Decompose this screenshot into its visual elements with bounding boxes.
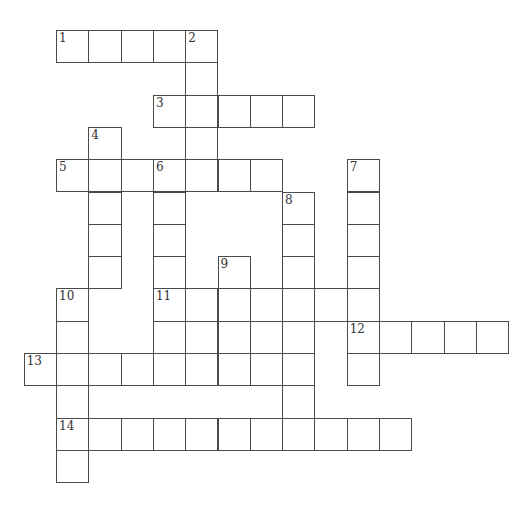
crossword-cell[interactable] [250, 353, 283, 386]
clue-number: 14 [59, 420, 74, 433]
crossword-cell[interactable] [56, 321, 89, 354]
crossword-cell[interactable]: 5 [56, 159, 89, 192]
crossword-cell[interactable] [411, 321, 444, 354]
crossword-cell[interactable] [218, 321, 251, 354]
crossword-cell[interactable]: 4 [88, 127, 121, 160]
clue-number: 2 [188, 32, 196, 45]
crossword-cell[interactable]: 12 [347, 321, 380, 354]
crossword-cell[interactable] [282, 353, 315, 386]
crossword-cell[interactable] [88, 256, 121, 289]
crossword-cell[interactable]: 2 [185, 30, 218, 63]
crossword-cell[interactable] [250, 159, 283, 192]
crossword-cell[interactable] [88, 418, 121, 451]
clue-number: 3 [156, 97, 164, 110]
crossword-cell[interactable] [282, 224, 315, 257]
clue-number: 13 [27, 355, 42, 368]
crossword-cell[interactable] [347, 418, 380, 451]
crossword-cell[interactable] [218, 418, 251, 451]
crossword-cell[interactable] [282, 385, 315, 418]
crossword-cell[interactable] [282, 288, 315, 321]
crossword-cell[interactable] [185, 288, 218, 321]
crossword-cell[interactable] [185, 353, 218, 386]
crossword-cell[interactable] [185, 321, 218, 354]
crossword-cell[interactable] [218, 159, 251, 192]
crossword-cell[interactable] [153, 224, 186, 257]
crossword-grid: 1234561171289101413 [0, 0, 528, 506]
crossword-cell[interactable] [218, 353, 251, 386]
clue-number: 5 [59, 161, 67, 174]
crossword-cell[interactable] [347, 192, 380, 225]
crossword-cell[interactable] [56, 353, 89, 386]
crossword-cell[interactable] [88, 30, 121, 63]
crossword-cell[interactable] [121, 159, 154, 192]
crossword-cell[interactable] [121, 30, 154, 63]
crossword-cell[interactable] [282, 418, 315, 451]
clue-number: 4 [91, 129, 99, 142]
crossword-cell[interactable] [153, 321, 186, 354]
crossword-cell[interactable] [153, 418, 186, 451]
crossword-cell[interactable] [282, 95, 315, 128]
crossword-cell[interactable] [282, 321, 315, 354]
crossword-cell[interactable] [347, 256, 380, 289]
crossword-cell[interactable] [314, 418, 347, 451]
crossword-cell[interactable] [88, 224, 121, 257]
crossword-cell[interactable] [88, 353, 121, 386]
crossword-cell[interactable] [314, 288, 347, 321]
crossword-cell[interactable] [185, 159, 218, 192]
crossword-cell[interactable]: 11 [153, 288, 186, 321]
crossword-cell[interactable] [218, 288, 251, 321]
clue-number: 8 [285, 194, 293, 207]
clue-number: 7 [350, 161, 358, 174]
crossword-cell[interactable] [379, 321, 412, 354]
clue-number: 6 [156, 161, 164, 174]
crossword-cell[interactable] [185, 127, 218, 160]
crossword-cell[interactable] [153, 192, 186, 225]
crossword-cell[interactable] [444, 321, 477, 354]
crossword-cell[interactable] [218, 95, 251, 128]
crossword-cell[interactable] [153, 30, 186, 63]
crossword-cell[interactable] [153, 256, 186, 289]
crossword-cell[interactable] [282, 256, 315, 289]
crossword-cell[interactable] [250, 95, 283, 128]
crossword-cell[interactable]: 10 [56, 288, 89, 321]
crossword-cell[interactable] [153, 353, 186, 386]
crossword-cell[interactable]: 14 [56, 418, 89, 451]
crossword-cell[interactable] [185, 418, 218, 451]
crossword-cell[interactable]: 8 [282, 192, 315, 225]
crossword-cell[interactable]: 9 [218, 256, 251, 289]
crossword-cell[interactable] [185, 95, 218, 128]
crossword-cell[interactable] [56, 385, 89, 418]
clue-number: 9 [221, 258, 229, 271]
crossword-cell[interactable]: 1 [56, 30, 89, 63]
crossword-cell[interactable] [250, 288, 283, 321]
crossword-cell[interactable] [185, 62, 218, 95]
crossword-cell[interactable] [250, 418, 283, 451]
crossword-cell[interactable]: 3 [153, 95, 186, 128]
clue-number: 10 [59, 290, 74, 303]
clue-number: 12 [350, 323, 365, 336]
crossword-cell[interactable] [476, 321, 509, 354]
crossword-cell[interactable] [121, 418, 154, 451]
crossword-cell[interactable]: 6 [153, 159, 186, 192]
crossword-cell[interactable] [56, 450, 89, 483]
crossword-cell[interactable]: 13 [24, 353, 57, 386]
crossword-cell[interactable] [121, 353, 154, 386]
clue-number: 11 [156, 290, 171, 303]
crossword-cell[interactable] [347, 224, 380, 257]
crossword-cell[interactable] [379, 418, 412, 451]
clue-number: 1 [59, 32, 67, 45]
crossword-cell[interactable] [347, 288, 380, 321]
crossword-cell[interactable] [88, 159, 121, 192]
crossword-cell[interactable]: 7 [347, 159, 380, 192]
crossword-cell[interactable] [347, 353, 380, 386]
crossword-cell[interactable] [88, 192, 121, 225]
